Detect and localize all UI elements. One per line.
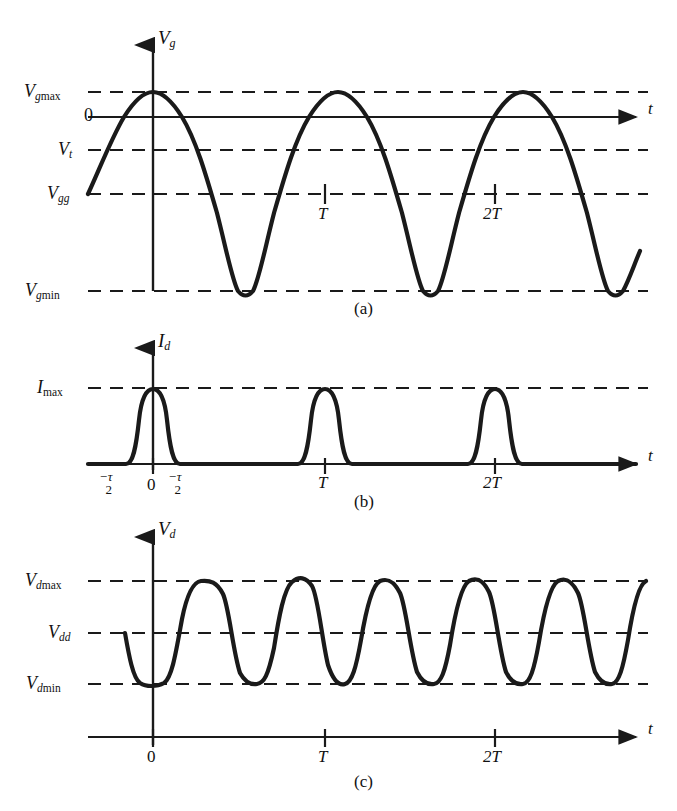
subplot-a xyxy=(88,45,648,296)
xtick-label-b-neg-tau-half: −τ2 xyxy=(99,470,112,497)
xtick-label-a-T: T xyxy=(318,205,327,222)
ylabel-vdmax: Vdmax xyxy=(25,571,62,592)
xtick-label-c-T: T xyxy=(318,748,327,765)
ylabel-imax: Imax xyxy=(37,378,63,399)
axis-label-vg: Vg xyxy=(158,28,176,49)
xtick-label-c-0: 0 xyxy=(147,748,156,765)
xtick-label-b-tau-half: −τ2 xyxy=(168,470,181,497)
subplot-c xyxy=(88,537,648,747)
ylabel-zero-a: 0 xyxy=(84,106,93,124)
ylabel-vgmin: Vgmin xyxy=(25,281,60,302)
ylabel-vdd: Vdd xyxy=(48,623,71,644)
xtick-label-a-2T: 2T xyxy=(483,205,501,222)
ylabel-vt: Vt xyxy=(58,140,72,161)
waveform-figure: Vg Vgmax 0 Vt Vgg Vgmin T 2T t (a) Id Im… xyxy=(0,0,677,811)
axis-label-id: Id xyxy=(158,331,170,352)
caption-c: (c) xyxy=(354,773,373,790)
xtick-label-b-0: 0 xyxy=(147,476,156,493)
axis-label-t-a: t xyxy=(648,100,653,117)
xtick-label-b-T: T xyxy=(318,474,327,491)
caption-a: (a) xyxy=(354,300,373,317)
caption-b: (b) xyxy=(354,493,374,510)
ylabel-vdmin: Vdmin xyxy=(26,674,61,695)
xtick-label-c-2T: 2T xyxy=(483,748,501,765)
subplot-b xyxy=(88,348,648,474)
xtick-label-b-2T: 2T xyxy=(483,474,501,491)
ylabel-vgg: Vgg xyxy=(47,184,70,205)
figure-svg xyxy=(0,0,677,811)
waveform-b xyxy=(88,389,636,464)
axis-label-vd: Vd xyxy=(158,519,176,540)
ylabel-vgmax: Vgmax xyxy=(24,82,61,103)
axis-label-t-c: t xyxy=(648,720,653,737)
axis-label-t-b: t xyxy=(648,447,653,464)
